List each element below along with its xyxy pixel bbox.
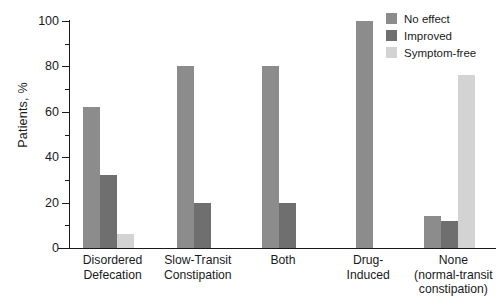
x-axis-category-label-line: Induced [326,268,411,283]
legend-color-swatch [386,47,397,58]
y-tick-label: 100 [38,14,59,28]
x-axis-category-label-line: Disordered [70,253,155,268]
x-axis-category-label: None(normal-transitconstipation) [411,253,496,297]
bar [356,21,373,248]
legend-item-label: No effect [404,13,450,25]
chart-legend: No effectImprovedSymptom-free [386,11,502,62]
y-tick-mark [62,157,69,158]
bar [424,216,441,248]
bar [262,66,279,248]
x-axis-category-label-line: Both [240,253,325,268]
legend-color-swatch [386,13,397,24]
x-axis-category-label: DisorderedDefecation [70,253,155,282]
x-axis-line [58,248,496,249]
y-tick-mark [65,44,69,45]
y-tick-mark [65,89,69,90]
bar [279,203,296,248]
y-axis-title: Patients, % [16,45,30,185]
y-tick-mark [62,248,69,249]
bar [458,75,475,248]
bar [177,66,194,248]
x-axis-category-label-line: Defecation [70,268,155,283]
legend-item-label: Improved [404,30,452,42]
y-tick-label: 20 [45,196,59,210]
bar [100,175,117,248]
legend-item-label: Symptom-free [404,47,476,59]
bar-group [155,21,240,248]
bar-group-bars [262,21,296,248]
y-tick-mark [62,203,69,204]
legend-item[interactable]: No effect [386,11,502,26]
bar [441,221,458,248]
x-axis-category-label-line: Slow-Transit [155,253,240,268]
x-axis-category-label-line: constipation) [411,282,496,297]
bar-group [70,21,155,248]
y-tick-mark [65,180,69,181]
x-axis-category-labels: DisorderedDefecationSlow-TransitConstipa… [70,253,496,303]
y-tick-label: 80 [45,59,59,73]
x-axis-category-label-line: None [411,253,496,268]
y-tick-label: 40 [45,150,59,164]
legend-color-swatch [386,30,397,41]
bar [117,234,134,248]
y-tick-mark [62,112,69,113]
y-tick-mark [62,66,69,67]
x-axis-category-label-line: (normal-transit [411,268,496,283]
x-axis-category-label-line: Constipation [155,268,240,283]
x-axis-category-label-line: Drug- [326,253,411,268]
bar-group-bars [356,21,373,248]
bar-group-bars [177,21,211,248]
y-tick-label: 0 [52,241,59,255]
legend-item[interactable]: Improved [386,28,502,43]
x-axis-category-label: Slow-TransitConstipation [155,253,240,282]
bar [194,203,211,248]
legend-item[interactable]: Symptom-free [386,45,502,60]
y-tick-mark [62,21,69,22]
x-axis-category-label: Drug-Induced [326,253,411,282]
bar-chart: Patients, % 020406080100 DisorderedDefec… [0,0,504,305]
bar-group [240,21,325,248]
bar [83,107,100,248]
y-tick-mark [65,135,69,136]
y-tick-mark [65,225,69,226]
x-axis-category-label: Both [240,253,325,268]
y-tick-label: 60 [45,105,59,119]
bar-group-bars [83,21,134,248]
